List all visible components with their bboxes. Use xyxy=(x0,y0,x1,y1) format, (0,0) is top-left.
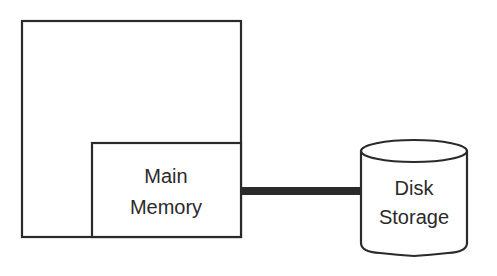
main-memory-label-line2: Memory xyxy=(130,196,202,218)
disk-storage-label-line1: Disk xyxy=(395,177,435,199)
main-memory-node: Main Memory xyxy=(92,143,241,237)
main-memory-box xyxy=(92,143,241,237)
disk-storage-label-line2: Storage xyxy=(379,206,449,228)
main-memory-label-line1: Main xyxy=(144,165,187,187)
disk-cylinder-body xyxy=(361,151,467,256)
disk-storage-node: Disk Storage xyxy=(361,140,467,256)
disk-cylinder-top xyxy=(361,140,467,162)
memory-disk-connector xyxy=(241,187,361,195)
diagram-canvas: Main Memory Disk Storage xyxy=(0,0,497,276)
